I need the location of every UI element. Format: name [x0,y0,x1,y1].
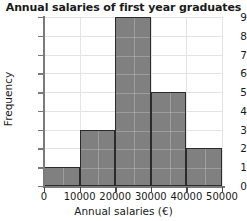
bar-gridline-horizontal [152,168,186,169]
bar-gridline-horizontal [81,149,115,150]
y-tick-mark [38,186,43,187]
bar [151,92,187,186]
y-tick-label: 4 [211,105,247,117]
y-tick-label: 3 [211,124,247,136]
plot-area [44,17,222,186]
x-axis-title: Annual salaries (€) [0,205,247,217]
x-tick-label: 30000 [135,191,167,202]
y-tick-mark [38,92,43,93]
bar [80,130,116,186]
bar-gridline-vertical [170,93,171,185]
bar-gridline-vertical [98,131,99,185]
y-tick-mark [38,55,43,56]
x-axis-line [43,186,225,188]
y-tick-mark [38,17,43,18]
bar [44,167,80,186]
y-axis-title: Frequency [2,49,14,149]
y-axis-line [43,16,45,187]
bar-gridline-horizontal [152,112,186,113]
y-tick-mark [38,73,43,74]
bar-gridline-horizontal [81,168,115,169]
histogram-figure: Annual salaries of first year graduates … [0,0,247,221]
y-tick-mark [38,167,43,168]
y-tick-label: 8 [211,30,247,42]
bar-gridline-horizontal [116,131,150,132]
bar-gridline-vertical [63,168,64,185]
bar [115,17,151,186]
y-tick-mark [38,148,43,149]
y-tick-label: 7 [211,49,247,61]
bar-gridline-horizontal [116,112,150,113]
y-tick-mark [38,111,43,112]
bar-gridline-horizontal [116,93,150,94]
bar-gridline-vertical [134,18,135,185]
chart-title: Annual salaries of first year graduates [0,1,247,14]
y-tick-mark [38,130,43,131]
y-tick-mark [38,36,43,37]
bar-gridline-horizontal [116,37,150,38]
y-tick-label: 2 [211,142,247,154]
x-tick-label: 20000 [99,191,131,202]
x-tick-label: 0 [41,191,47,202]
y-tick-label: 6 [211,67,247,79]
x-tick-label: 50000 [206,191,238,202]
bar-gridline-horizontal [116,56,150,57]
bar-gridline-horizontal [152,131,186,132]
bar-gridline-horizontal [116,149,150,150]
bar-gridline-horizontal [116,168,150,169]
x-tick-label: 40000 [170,191,202,202]
y-tick-label: 1 [211,161,247,173]
bar-gridline-vertical [205,149,206,185]
bar-gridline-horizontal [116,74,150,75]
x-tick-label: 10000 [64,191,96,202]
bar-gridline-horizontal [152,149,186,150]
y-tick-label: 9 [211,11,247,23]
y-tick-label: 5 [211,86,247,98]
